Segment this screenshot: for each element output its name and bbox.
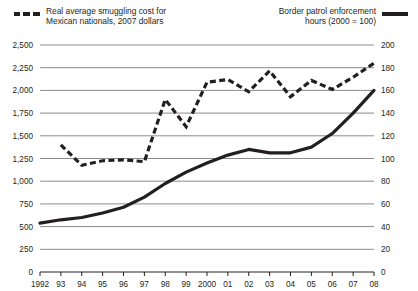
legend-label-smuggling-cost: Real average smuggling cost for Mexican … — [46, 6, 166, 27]
series-line-smuggling-cost — [61, 63, 374, 165]
x-axis-tick-label: 96 — [119, 280, 129, 289]
x-axis-tick-label: 1992 — [31, 280, 50, 289]
y-axis-right-tick-label: 180 — [381, 64, 395, 73]
x-axis-tick-label: 95 — [98, 280, 108, 289]
x-axis-tick-label: 2000 — [198, 280, 217, 289]
x-axis-tick-label: 04 — [286, 280, 296, 289]
legend-label-line2: Mexican nationals, 2007 dollars — [46, 16, 163, 26]
x-axis-tick-label: 99 — [182, 280, 192, 289]
y-axis-left-tick-label: 750 — [19, 200, 33, 209]
legend-label-line2: hours (2000 = 100) — [305, 16, 376, 26]
y-axis-right-tick-label: 60 — [381, 200, 391, 209]
x-axis-tick-label: 02 — [244, 280, 254, 289]
legend-label-line1: Border patrol enforcement — [279, 6, 376, 16]
y-axis-left-tick-label: 2,500 — [13, 41, 34, 50]
y-axis-left-tick-label: 500 — [19, 223, 33, 232]
legend-label-enforcement-hours: Border patrol enforcement hours (2000 = … — [279, 6, 376, 27]
y-axis-right-tick-label: 0 — [381, 268, 386, 277]
y-axis-right-tick-label: 120 — [381, 132, 395, 141]
y-axis-right-tick-label: 40 — [381, 223, 391, 232]
y-axis-left-tick-label: 1,750 — [13, 109, 34, 118]
y-axis-left-tick-label: 250 — [19, 245, 33, 254]
x-axis-tick-label: 01 — [223, 280, 233, 289]
x-axis-tick-label: 94 — [77, 280, 87, 289]
y-axis-left-tick-label: 2,250 — [13, 64, 34, 73]
plot-area: 02505007501,0001,2501,5001,7502,0002,250… — [0, 40, 418, 291]
chart-legend: Real average smuggling cost for Mexican … — [0, 6, 418, 40]
y-axis-right-tick-label: 20 — [381, 245, 391, 254]
x-axis-tick-label: 08 — [369, 280, 379, 289]
y-axis-left-tick-label: 0 — [28, 268, 33, 277]
y-axis-left-tick-label: 1,250 — [13, 155, 34, 164]
x-axis-tick-label: 97 — [140, 280, 150, 289]
x-axis-tick-label: 98 — [161, 280, 171, 289]
y-axis-left-tick-label: 1,500 — [13, 132, 34, 141]
chart-root: Real average smuggling cost for Mexican … — [0, 0, 418, 291]
legend-item-enforcement-hours: Border patrol enforcement hours (2000 = … — [279, 6, 408, 27]
solid-line-swatch-icon — [382, 12, 408, 16]
legend-label-line1: Real average smuggling cost for — [46, 6, 166, 16]
y-axis-left-tick-label: 1,000 — [13, 177, 34, 186]
x-axis-tick-label: 07 — [349, 280, 359, 289]
x-axis-tick-label: 93 — [56, 280, 66, 289]
y-axis-left-tick-label: 2,000 — [13, 86, 34, 95]
series-line-enforcement-hours — [40, 90, 374, 223]
y-axis-right-tick-label: 100 — [381, 155, 395, 164]
x-axis-tick-label: 05 — [307, 280, 317, 289]
y-axis-right-tick-label: 160 — [381, 86, 395, 95]
dashed-line-swatch-icon — [14, 12, 40, 16]
x-axis-tick-label: 03 — [265, 280, 275, 289]
y-axis-right-tick-label: 140 — [381, 109, 395, 118]
chart-svg: 02505007501,0001,2501,5001,7502,0002,250… — [0, 40, 418, 291]
y-axis-right-tick-label: 80 — [381, 177, 391, 186]
x-axis-tick-label: 06 — [328, 280, 338, 289]
legend-item-smuggling-cost: Real average smuggling cost for Mexican … — [14, 6, 166, 27]
y-axis-right-tick-label: 200 — [381, 41, 395, 50]
